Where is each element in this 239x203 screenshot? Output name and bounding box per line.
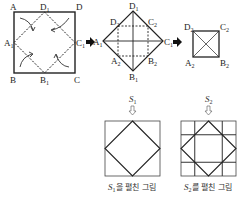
- label-a1: A1: [4, 38, 14, 49]
- down-arrow-icon: [205, 106, 212, 115]
- label-s2: S2: [205, 94, 213, 105]
- label-d2: D2: [184, 22, 194, 33]
- label-d: D: [76, 2, 83, 12]
- caption-s1: S1을 펼친 그림: [108, 182, 156, 193]
- figure3-labels: D2 C2 A2 B2: [184, 22, 229, 69]
- label-a1: A1: [93, 37, 103, 48]
- label-d2: D2: [110, 17, 120, 28]
- down-arrow-icon: [129, 106, 136, 115]
- caption-s2: S2를 펼친 그림: [184, 182, 232, 193]
- folding-diagram: A D B C D1 A1 C1 B1 D1 D2 C2 A1 C1 A2 B2…: [0, 0, 239, 203]
- label-d1: D1: [129, 1, 139, 12]
- label-d1: D1: [40, 2, 50, 13]
- arrow-right-icon: [173, 37, 182, 47]
- label-c2: C2: [148, 17, 157, 28]
- label-a: A: [10, 2, 17, 12]
- label-b: B: [10, 75, 16, 85]
- label-b2: B2: [220, 58, 229, 69]
- figure-small-square: [193, 31, 219, 57]
- fold-arrows-icon: [20, 18, 69, 67]
- label-c1: C1: [164, 37, 173, 48]
- label-c2: C2: [220, 22, 229, 33]
- label-c1: C1: [76, 38, 85, 49]
- label-a2: A2: [185, 58, 195, 69]
- unfold-s2: S2 S2를 펼친 그림: [181, 94, 236, 193]
- label-c: C: [74, 75, 80, 85]
- label-b2: B2: [148, 56, 157, 67]
- unfold-s1: S1 S1을 펼친 그림: [105, 94, 160, 193]
- label-b1: B1: [40, 75, 49, 86]
- label-b1: B1: [129, 72, 138, 83]
- label-s1: S1: [129, 94, 137, 105]
- figure-square-abcd: [14, 12, 75, 73]
